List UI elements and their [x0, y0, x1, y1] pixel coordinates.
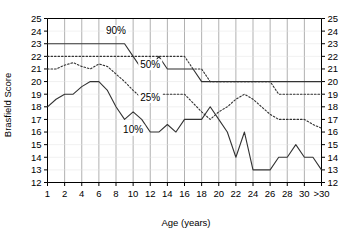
- annotation-50pct: 50%: [140, 59, 160, 70]
- y-tick-label-right: 25: [328, 13, 339, 24]
- y-tick-label-left: 13: [31, 164, 42, 175]
- x-axis-title: Age (years): [161, 217, 210, 228]
- annotation-25pct: 25%: [140, 92, 160, 103]
- y-tick-label-left: 22: [31, 51, 42, 62]
- annotation-90pct: 90%: [106, 25, 126, 36]
- x-tick-label: 12: [145, 188, 156, 199]
- y-tick-label-right: 13: [328, 164, 339, 175]
- x-tick-label: 1: [45, 188, 50, 199]
- y-tick-label-left: 20: [31, 76, 42, 87]
- x-tick-label: 30: [299, 188, 310, 199]
- x-tick-label: 4: [79, 188, 84, 199]
- y-tick-label-right: 16: [328, 126, 339, 137]
- y-tick-label-right: 18: [328, 101, 339, 112]
- y-tick-label-right: 17: [328, 114, 339, 125]
- y-tick-label-left: 14: [31, 152, 42, 163]
- y-tick-label-left: 12: [31, 177, 42, 188]
- x-tick-label: 8: [113, 188, 118, 199]
- x-tick-label: 18: [196, 188, 207, 199]
- y-tick-label-right: 21: [328, 63, 339, 74]
- y-tick-label-left: 18: [31, 101, 42, 112]
- x-tick-label: >30: [313, 188, 329, 199]
- annotation-10pct: 10%: [123, 124, 143, 135]
- y-tick-label-right: 15: [328, 139, 339, 150]
- y-tick-label-left: 17: [31, 114, 42, 125]
- x-tick-label: 20: [213, 188, 224, 199]
- brasfield-score-line-chart: 1213141516171819202122232425 12131415161…: [0, 0, 355, 229]
- y-tick-label-right: 23: [328, 38, 339, 49]
- x-tick-label: 22: [231, 188, 242, 199]
- x-tick-label: 14: [162, 188, 173, 199]
- x-tick-label: 26: [265, 188, 276, 199]
- y-tick-label-right: 20: [328, 76, 339, 87]
- chart-container: 1213141516171819202122232425 12131415161…: [0, 0, 355, 229]
- y-tick-label-right: 12: [328, 177, 339, 188]
- y-tick-label-left: 24: [31, 26, 42, 37]
- x-tick-label: 28: [282, 188, 293, 199]
- y-tick-label-right: 24: [328, 26, 339, 37]
- y-tick-label-right: 19: [328, 89, 339, 100]
- y-axis-title: Brasfield Score: [2, 73, 13, 137]
- y-tick-label-left: 15: [31, 139, 42, 150]
- y-tick-label-left: 16: [31, 126, 42, 137]
- y-tick-label-left: 23: [31, 38, 42, 49]
- x-tick-label: 6: [96, 188, 101, 199]
- y-tick-label-left: 19: [31, 89, 42, 100]
- y-tick-label-right: 22: [328, 51, 339, 62]
- y-tick-label-left: 25: [31, 13, 42, 24]
- x-tick-label: 10: [128, 188, 139, 199]
- y-tick-label-left: 21: [31, 63, 42, 74]
- y-tick-label-right: 14: [328, 152, 339, 163]
- x-tick-label: 16: [179, 188, 190, 199]
- x-tick-label: 2: [62, 188, 67, 199]
- x-tick-label: 24: [248, 188, 259, 199]
